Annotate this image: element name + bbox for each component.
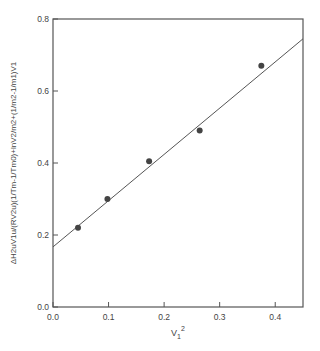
x-tick-label: 0.4 bbox=[269, 312, 281, 322]
y-tick-label: 0.0 bbox=[37, 302, 49, 312]
data-point bbox=[75, 225, 81, 231]
data-point bbox=[146, 158, 152, 164]
y-axis-label: ΔH2uV1u/(RV2u)(1/Tm-1/Tm0)+lnV2/m2+(1/m2… bbox=[9, 61, 18, 264]
x-tick-label: 0.0 bbox=[47, 312, 59, 322]
data-points bbox=[75, 63, 264, 231]
y-tick-label: 0.2 bbox=[37, 230, 49, 240]
plot-frame bbox=[53, 19, 303, 307]
x-axis-label: V12 bbox=[171, 325, 185, 340]
x-tick-label: 0.3 bbox=[214, 312, 226, 322]
data-point bbox=[104, 196, 110, 202]
scatter-chart: 0.00.20.40.60.8 0.00.10.20.30.4 V12 ΔH2u… bbox=[0, 0, 320, 351]
y-tick-label: 0.4 bbox=[37, 158, 49, 168]
y-axis-ticks: 0.00.20.40.60.8 bbox=[37, 14, 58, 312]
data-point bbox=[197, 128, 203, 134]
x-tick-label: 0.1 bbox=[103, 312, 115, 322]
x-axis-ticks: 0.00.10.20.30.4 bbox=[47, 302, 281, 322]
y-tick-label: 0.8 bbox=[37, 14, 49, 24]
data-point bbox=[258, 63, 264, 69]
fit-line bbox=[53, 39, 303, 247]
y-tick-label: 0.6 bbox=[37, 86, 49, 96]
x-tick-label: 0.2 bbox=[158, 312, 170, 322]
